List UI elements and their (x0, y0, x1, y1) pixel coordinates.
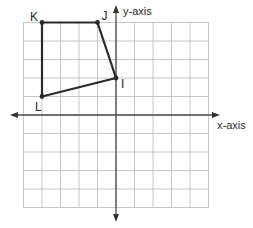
axes: y-axis x-axis (10, 5, 246, 222)
y-axis-up-arrow-icon (113, 5, 119, 13)
vertex-label-k: K (30, 10, 38, 24)
vertex-point-i (114, 76, 119, 81)
x-axis-right-arrow-icon (212, 112, 220, 118)
x-axis-left-arrow-icon (10, 112, 18, 118)
vertex-label-i: I (121, 77, 124, 91)
y-axis-down-arrow-icon (113, 214, 119, 222)
vertex-point-k (40, 20, 45, 25)
vertex-label-l: L (35, 100, 42, 114)
vertex-point-l (40, 94, 45, 99)
x-axis-label: x-axis (217, 119, 246, 131)
coordinate-plane: y-axis x-axis KJIL (0, 0, 253, 228)
vertex-label-j: J (102, 9, 108, 23)
vertex-point-j (95, 20, 100, 25)
y-axis-label: y-axis (123, 5, 152, 17)
